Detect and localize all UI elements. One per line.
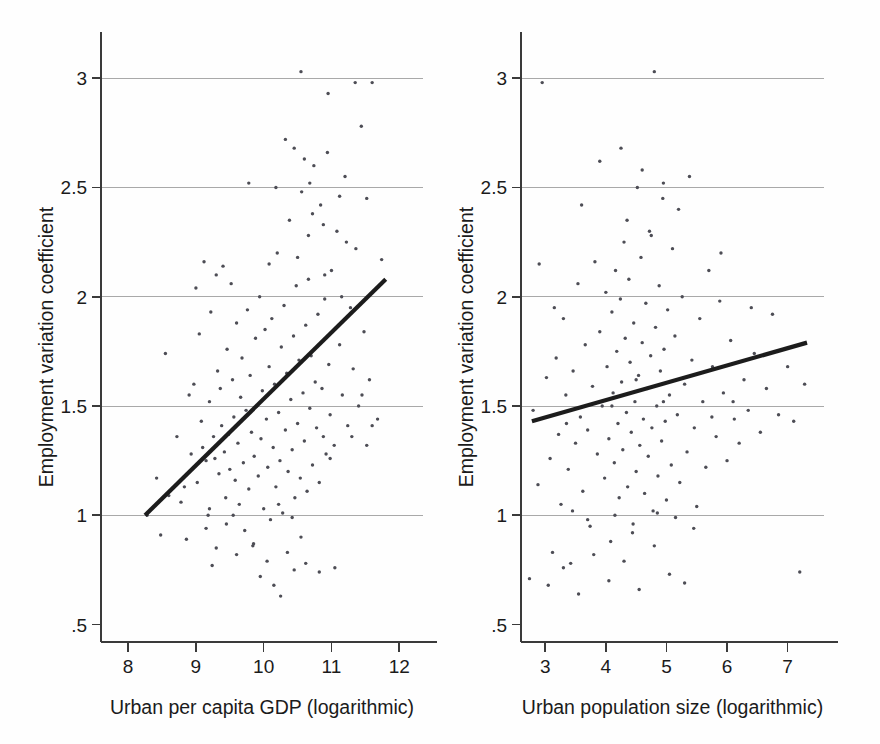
scatter-point — [247, 487, 250, 490]
scatter-point — [290, 516, 293, 519]
scatter-point — [676, 413, 679, 416]
scatter-point — [673, 334, 676, 337]
scatter-point — [303, 439, 306, 442]
scatter-point — [247, 181, 250, 184]
scatter-point — [326, 151, 329, 154]
scatter-point — [296, 422, 299, 425]
scatter-point — [707, 269, 710, 272]
y-tick-label: 1.5 — [61, 396, 87, 417]
scatter-point — [242, 461, 245, 464]
scatter-point — [553, 306, 556, 309]
scatter-point — [631, 522, 634, 525]
scatter-point — [666, 308, 669, 311]
right-scatter-plot: .511.522.5334567Urban population size (l… — [440, 0, 880, 744]
scatter-point — [328, 413, 331, 416]
scatter-point — [626, 485, 629, 488]
scatter-point — [290, 448, 293, 451]
scatter-point — [380, 258, 383, 261]
scatter-point — [266, 465, 269, 468]
scatter-point — [657, 284, 660, 287]
scatter-point — [579, 415, 582, 418]
scatter-point — [611, 391, 614, 394]
scatter-point — [610, 404, 613, 407]
scatter-point — [223, 450, 226, 453]
scatter-point — [155, 476, 158, 479]
scatter-point — [299, 476, 302, 479]
scatter-point — [574, 441, 577, 444]
scatter-point — [622, 240, 625, 243]
scatter-point — [200, 420, 203, 423]
scatter-point — [345, 240, 348, 243]
scatter-point — [613, 514, 616, 517]
scatter-point — [650, 234, 653, 237]
scatter-point — [692, 527, 695, 530]
scatter-point — [662, 181, 665, 184]
scatter-point — [718, 299, 721, 302]
scatter-points-group — [145, 70, 383, 598]
scatter-point — [729, 339, 732, 342]
scatter-point — [219, 387, 222, 390]
scatter-point — [212, 435, 215, 438]
scatter-point — [580, 203, 583, 206]
scatter-point — [630, 431, 633, 434]
scatter-point — [232, 415, 235, 418]
scatter-point — [643, 492, 646, 495]
scatter-point — [619, 146, 622, 149]
scatter-point — [311, 212, 314, 215]
scatter-point — [641, 341, 644, 344]
scatter-point — [295, 284, 298, 287]
scatter-point — [607, 579, 610, 582]
scatter-point — [216, 369, 219, 372]
scatter-point — [253, 455, 256, 458]
scatter-point — [609, 540, 612, 543]
scatter-point — [636, 186, 639, 189]
scatter-point — [642, 417, 645, 420]
scatter-point — [215, 546, 218, 549]
scatter-point — [326, 92, 329, 95]
scatter-point — [655, 404, 658, 407]
scatter-point — [362, 330, 365, 333]
scatter-point — [225, 347, 228, 350]
scatter-point — [683, 382, 686, 385]
scatter-point — [217, 472, 220, 475]
scatter-point — [565, 422, 568, 425]
x-tick-label: 5 — [661, 656, 672, 677]
scatter-point — [638, 444, 641, 447]
scatter-point — [277, 503, 280, 506]
scatter-point — [654, 326, 657, 329]
scatter-point — [670, 463, 673, 466]
scatter-point — [307, 278, 310, 281]
scatter-point — [577, 592, 580, 595]
y-tick-label: 3 — [76, 68, 87, 89]
scatter-point — [714, 435, 717, 438]
scatter-point — [664, 420, 667, 423]
scatter-point — [279, 594, 282, 597]
scatter-point — [244, 409, 247, 412]
scatter-point — [617, 496, 620, 499]
scatter-point — [619, 297, 622, 300]
scatter-point — [586, 428, 589, 431]
scatter-point — [236, 441, 239, 444]
scatter-point — [759, 431, 762, 434]
scatter-point — [628, 361, 631, 364]
scatter-point — [262, 507, 265, 510]
scatter-point — [634, 378, 637, 381]
scatter-point — [175, 435, 178, 438]
scatter-point — [258, 295, 261, 298]
scatter-point — [365, 444, 368, 447]
scatter-point — [376, 417, 379, 420]
scatter-point — [292, 334, 295, 337]
scatter-point — [208, 507, 211, 510]
scatter-point — [185, 538, 188, 541]
scatter-point — [722, 391, 725, 394]
scatter-point — [662, 347, 665, 350]
scatter-point — [624, 337, 627, 340]
scatter-point — [605, 365, 608, 368]
scatter-point — [293, 568, 296, 571]
scatter-point — [750, 306, 753, 309]
y-tick-label: 2 — [76, 287, 87, 308]
scatter-point — [591, 385, 594, 388]
scatter-point — [240, 356, 243, 359]
scatter-point — [257, 474, 260, 477]
scatter-point — [327, 363, 330, 366]
